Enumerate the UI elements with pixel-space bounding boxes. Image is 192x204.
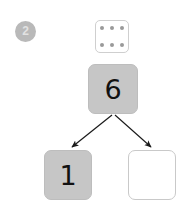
number-bond-total-box[interactable]: 6 [88, 64, 138, 114]
dice-dot-icon [120, 43, 124, 47]
dice-row-bottom [100, 43, 124, 47]
dice-row-top [100, 26, 124, 30]
dice-dot-icon [100, 43, 104, 47]
arrow-to-right-part [115, 115, 151, 147]
worksheet-canvas: 2 6 1 [0, 0, 192, 204]
number-bond-part-box-left[interactable]: 1 [44, 150, 92, 200]
dice-dot-icon [120, 26, 124, 30]
six-dot-tile [95, 20, 129, 53]
number-bond-part-box-right[interactable] [128, 150, 176, 200]
dice-dot-icon [110, 43, 114, 47]
dice-dot-icon [100, 26, 104, 30]
question-number-badge: 2 [15, 21, 36, 42]
dice-dot-icon [110, 26, 114, 30]
arrow-to-left-part [72, 115, 112, 147]
